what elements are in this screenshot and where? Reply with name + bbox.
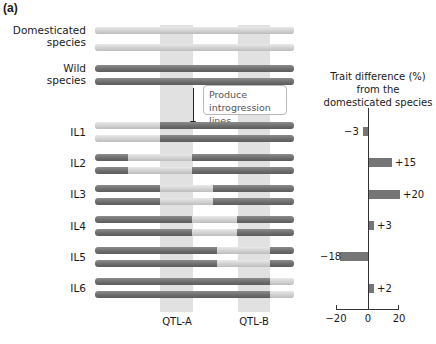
qtl-a-label: QTL-A [157,316,197,327]
bar-il3 [369,190,400,199]
bar-label-il1: −3 [344,127,359,137]
bar-label-il2: +15 [395,158,416,168]
il6-label: IL6 [0,282,86,294]
domesticated-species-label: Domesticated species [0,24,86,48]
il2-chromosome-2 [95,167,294,174]
panel-label: (a) [3,1,18,15]
bar-label-il4: +3 [377,221,392,231]
arrow-down-icon [193,88,194,122]
tick-pos20 [398,305,399,310]
bar-il2 [369,158,392,167]
il5-label: IL5 [0,251,86,263]
bar-label-il3: +20 [403,190,424,200]
il2-label: IL2 [0,157,86,169]
wild-chromosome-2 [95,78,294,85]
il3-label: IL3 [0,188,86,200]
il1-chromosome-1 [95,122,294,129]
il4-chromosome-1 [95,216,294,223]
il3-chromosome-1 [95,185,294,192]
chart-title: Trait difference (%) from the domesticat… [322,70,434,109]
il6-chromosome-2 [95,291,294,298]
bar-il6 [369,284,374,293]
callout-box: Produce introgression lines. [203,85,287,115]
il2-chromosome-1 [95,154,294,161]
bar-label-il6: +2 [377,284,392,294]
wild-chromosome-1 [95,65,294,72]
chart-x-axis [336,309,399,310]
tick-neg20 [336,305,337,310]
tick-label-pos20: 20 [384,313,414,324]
il6-chromosome-1 [95,278,294,285]
tick-label-neg20: −20 [321,313,351,324]
il5-chromosome-2 [95,260,294,267]
il1-label: IL1 [0,126,86,138]
bar-il5 [340,252,368,261]
il4-chromosome-2 [95,229,294,236]
il5-chromosome-1 [95,247,294,254]
domesticated-chromosome-2 [95,44,294,51]
il3-chromosome-2 [95,198,294,205]
domesticated-chromosome-1 [95,27,294,34]
bar-label-il5: −18 [320,252,341,262]
qtl-b-label: QTL-B [234,316,274,327]
il1-chromosome-2 [95,135,294,142]
bar-il1 [363,127,368,136]
tick-label-0: 0 [353,313,383,324]
chart-zero-axis [368,108,369,310]
wild-species-label: Wild species [0,62,86,86]
bar-il4 [369,221,374,230]
il4-label: IL4 [0,220,86,232]
